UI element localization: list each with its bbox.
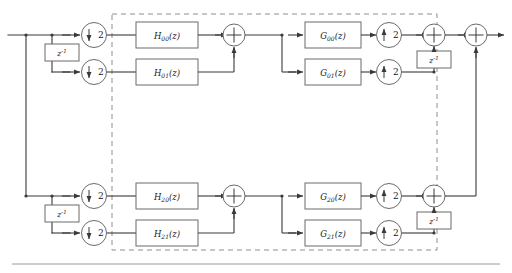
downsampler-factor: 2	[98, 228, 104, 238]
h20: H20(z)	[136, 183, 198, 209]
down-00: 2	[82, 23, 107, 48]
h00: H00(z)	[136, 22, 198, 48]
down-20: 2	[82, 184, 107, 209]
dashed-region-boundary	[112, 14, 437, 250]
junction-dot	[280, 194, 283, 197]
junction-dot	[24, 194, 27, 197]
g20: G20(z)	[305, 183, 361, 209]
h21: H21(z)	[136, 220, 198, 246]
junction-dot	[24, 33, 27, 36]
adder-analysis-top	[223, 24, 245, 46]
adder-synthesis-bottom	[423, 185, 445, 207]
up-00: 2	[377, 23, 402, 48]
delay-synthesis-top: z-1	[417, 51, 451, 68]
adder-output	[465, 24, 487, 46]
downsampler-factor: 2	[98, 30, 104, 40]
junction-dot	[432, 70, 435, 73]
up-21: 2	[377, 221, 402, 246]
downsampler-factor: 2	[98, 191, 104, 201]
up-20: 2	[377, 184, 402, 209]
down-01: 2	[82, 60, 107, 85]
junction-dot	[50, 194, 53, 197]
upsampler-factor: 2	[393, 191, 399, 201]
h01: H01(z)	[136, 59, 198, 85]
junction-dot	[50, 33, 53, 36]
delay-synthesis-bottom: z-1	[417, 212, 451, 229]
down-21: 2	[82, 221, 107, 246]
adder-synthesis-top	[423, 24, 445, 46]
delay-analysis-bottom: z-1	[45, 205, 79, 222]
upsampler-factor: 2	[393, 228, 399, 238]
g00: G00(z)	[305, 22, 361, 48]
figure-canvas: z-1 z-1 2 2 2 2 H00(z) H01(z)	[0, 0, 512, 273]
block-diagram: z-1 z-1 2 2 2 2 H00(z) H01(z)	[0, 0, 512, 273]
downsampler-factor: 2	[98, 67, 104, 77]
adder-analysis-bottom	[223, 185, 245, 207]
junction-dot	[280, 33, 283, 36]
up-01: 2	[377, 60, 402, 85]
upsampler-factor: 2	[393, 67, 399, 77]
upsampler-factor: 2	[393, 30, 399, 40]
g21: G21(z)	[305, 220, 361, 246]
g01: G01(z)	[305, 59, 361, 85]
delay-analysis-top: z-1	[45, 44, 79, 61]
junction-dot	[432, 231, 435, 234]
